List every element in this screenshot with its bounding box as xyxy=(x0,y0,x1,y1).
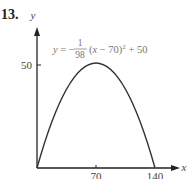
x-tick-label-140: 140 xyxy=(147,170,164,179)
x-axis-arrow-icon xyxy=(171,165,180,171)
equation-lhs: y = − xyxy=(52,44,75,55)
equation-denominator: 98 xyxy=(75,50,85,60)
parabola-chart: y x 50 70 140 y = − 1 98 (x − 70)2 + 50 xyxy=(0,0,189,179)
y-axis-label: y xyxy=(30,9,36,21)
x-axis-label: x xyxy=(181,161,187,173)
x-tick-label-70: 70 xyxy=(91,170,103,179)
equation-numerator: 1 xyxy=(78,38,83,48)
y-axis-arrow-icon xyxy=(34,27,40,36)
y-tick-label-50: 50 xyxy=(21,59,33,71)
parabola-curve xyxy=(37,63,155,168)
equation-rhs: (x − 70)2 + 50 xyxy=(89,43,148,56)
